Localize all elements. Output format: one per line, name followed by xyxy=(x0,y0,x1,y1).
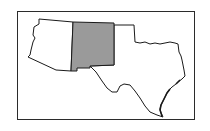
southwest-states-map xyxy=(0,0,210,131)
state-new-mexico[interactable] xyxy=(71,22,114,71)
state-arizona[interactable] xyxy=(28,19,73,71)
